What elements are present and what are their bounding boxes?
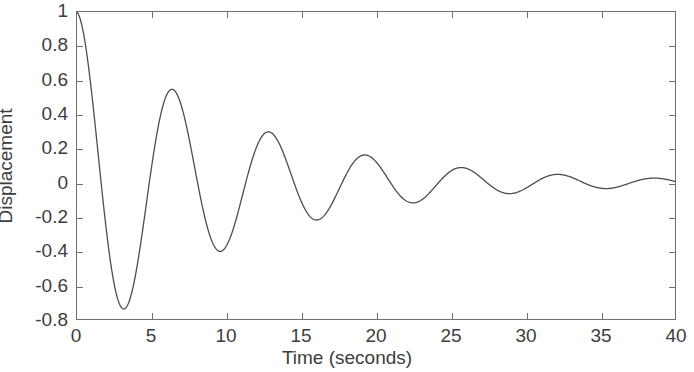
x-tick-label: 20 xyxy=(346,326,406,345)
y-tick-mark xyxy=(669,287,675,288)
x-tick-label: 0 xyxy=(46,326,106,345)
x-tick-mark xyxy=(527,12,528,18)
y-tick-mark xyxy=(669,115,675,116)
x-tick-mark xyxy=(152,313,153,319)
x-tick-mark xyxy=(602,12,603,18)
x-tick-mark xyxy=(302,313,303,319)
y-tick-mark xyxy=(77,149,83,150)
y-tick-mark xyxy=(77,184,83,185)
x-tick-label: 35 xyxy=(571,326,631,345)
y-tick-mark xyxy=(669,184,675,185)
plot-area xyxy=(76,11,676,320)
y-tick-mark xyxy=(77,218,83,219)
x-tick-mark xyxy=(302,12,303,18)
x-tick-mark xyxy=(227,313,228,319)
y-tick-mark xyxy=(77,46,83,47)
y-tick-mark xyxy=(669,149,675,150)
x-tick-mark xyxy=(227,12,228,18)
y-tick-mark xyxy=(77,287,83,288)
x-tick-label: 30 xyxy=(496,326,556,345)
figure-canvas: -0.8-0.6-0.4-0.200.20.40.60.81 051015202… xyxy=(0,0,694,372)
y-tick-mark xyxy=(77,81,83,82)
x-tick-label: 25 xyxy=(421,326,481,345)
x-tick-label: 15 xyxy=(271,326,331,345)
x-tick-mark xyxy=(452,12,453,18)
y-tick-label: 1 xyxy=(6,1,68,20)
y-axis-title: Displacement xyxy=(0,56,16,276)
y-tick-mark xyxy=(77,252,83,253)
x-axis-title: Time (seconds) xyxy=(0,348,694,368)
x-tick-mark xyxy=(602,313,603,319)
y-tick-mark xyxy=(669,218,675,219)
x-tick-mark xyxy=(452,313,453,319)
y-tick-mark xyxy=(669,46,675,47)
y-tick-mark xyxy=(669,81,675,82)
y-tick-label: 0.8 xyxy=(6,35,68,54)
x-tick-mark xyxy=(377,12,378,18)
y-tick-mark xyxy=(669,252,675,253)
damped-oscillation-curve xyxy=(77,12,675,319)
x-tick-mark xyxy=(527,313,528,319)
y-tick-mark xyxy=(77,115,83,116)
y-tick-label: -0.6 xyxy=(6,276,68,295)
x-tick-mark xyxy=(152,12,153,18)
x-tick-label: 5 xyxy=(121,326,181,345)
x-tick-label: 40 xyxy=(646,326,694,345)
x-tick-label: 10 xyxy=(196,326,256,345)
x-tick-mark xyxy=(377,313,378,319)
